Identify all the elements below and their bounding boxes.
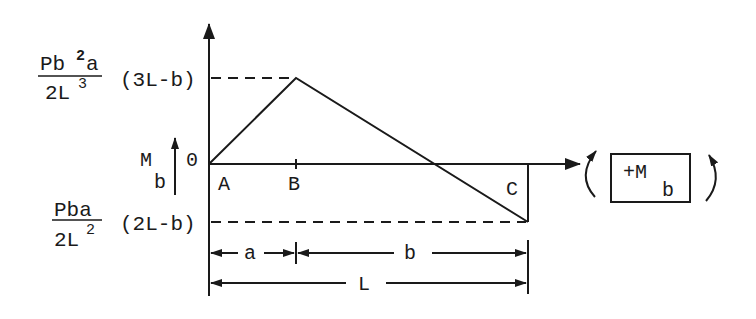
upper-numerator-pb: Pb — [40, 53, 65, 76]
sign-convention-label: +M — [623, 161, 647, 184]
point-a-label: A — [218, 173, 230, 196]
upper-numerator-exp: 2 — [76, 48, 85, 65]
upper-factor: (3L-b) — [120, 69, 196, 92]
point-b-label: B — [288, 173, 300, 196]
upper-denominator: 2L — [45, 82, 70, 105]
upper-numerator-a: a — [86, 53, 99, 76]
y-axis-label: M — [140, 149, 152, 172]
lower-numerator: Pba — [54, 199, 92, 222]
point-c-label: C — [506, 178, 518, 201]
right-curved-arrow-icon — [706, 155, 716, 201]
bending-moment-diagram: M b 0 Pb 2 a 2L 3 (3L-b) Pba 2L 2 (2L-b)… — [0, 0, 756, 319]
upper-denominator-exp: 3 — [78, 76, 87, 93]
lower-factor: (2L-b) — [120, 213, 196, 236]
y-axis-label-sub: b — [154, 171, 166, 194]
dim-l-label: L — [358, 273, 370, 296]
dim-b-label: b — [404, 242, 416, 265]
lower-denominator-exp: 2 — [86, 222, 95, 239]
left-curved-arrow-icon — [586, 151, 596, 197]
lower-denominator: 2L — [54, 229, 79, 252]
origin-label: 0 — [186, 149, 198, 172]
moment-curve — [209, 78, 528, 222]
sign-convention-label-sub: b — [662, 179, 674, 202]
dim-a-label: a — [244, 242, 256, 265]
